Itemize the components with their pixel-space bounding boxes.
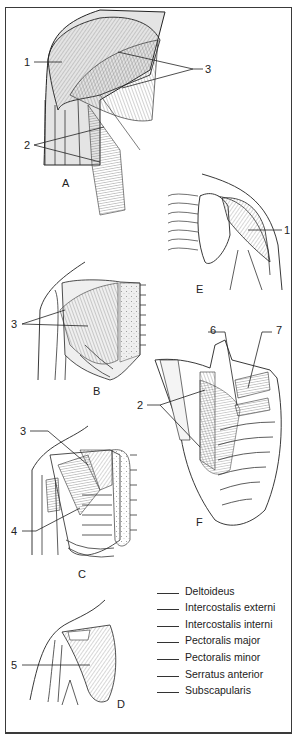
panel-label-e: E xyxy=(196,284,203,295)
callout-a-1: 1 xyxy=(24,57,30,68)
legend-label: Pectoralis minor xyxy=(185,651,260,663)
legend-label: Pectoralis major xyxy=(185,634,260,646)
legend-label: Intercostalis interni xyxy=(185,618,273,630)
callout-f-2: 2 xyxy=(137,400,143,411)
answer-blank xyxy=(157,659,179,660)
panel-e-illustration xyxy=(168,174,282,290)
panel-label-a: A xyxy=(62,178,69,189)
legend-label: Deltoideus xyxy=(185,585,235,597)
legend-item: Intercostalis interni xyxy=(157,613,287,630)
legend-item: Pectoralis minor xyxy=(157,646,287,663)
callout-a-3: 3 xyxy=(205,64,211,75)
panel-label-b: B xyxy=(93,386,100,397)
callout-a-2: 2 xyxy=(24,140,30,151)
legend-label: Intercostalis externi xyxy=(185,601,275,613)
callout-f-7: 7 xyxy=(276,325,282,336)
panel-c-illustration xyxy=(22,426,137,557)
legend-label: Serratus anterior xyxy=(185,668,263,680)
answer-blank xyxy=(157,626,179,627)
answer-blank xyxy=(157,692,179,693)
callout-c-3: 3 xyxy=(20,426,26,437)
callout-c-4: 4 xyxy=(11,526,17,537)
answer-blank xyxy=(157,642,179,643)
callout-b-3: 3 xyxy=(11,319,17,330)
answer-blank xyxy=(157,676,179,677)
legend-item: Serratus anterior xyxy=(157,663,287,680)
callout-f-6: 6 xyxy=(210,325,216,336)
answer-blank xyxy=(157,609,179,610)
panel-f-illustration xyxy=(147,332,281,525)
callout-d-5: 5 xyxy=(11,660,17,671)
muscle-legend: Deltoideus Intercostalis externi Interco… xyxy=(157,580,287,696)
answer-blank xyxy=(157,593,179,594)
legend-item: Intercostalis externi xyxy=(157,597,287,614)
panel-a-illustration xyxy=(34,10,203,215)
panel-label-d: D xyxy=(117,699,125,710)
callout-e-1: 1 xyxy=(284,225,290,236)
legend-item: Pectoralis major xyxy=(157,630,287,647)
legend-item: Subscapularis xyxy=(157,680,287,697)
panel-b-illustration xyxy=(22,262,146,380)
legend-item: Deltoideus xyxy=(157,580,287,597)
panel-label-f: F xyxy=(196,517,203,528)
legend-label: Subscapularis xyxy=(185,684,251,696)
panel-label-c: C xyxy=(78,569,86,580)
panel-d-illustration xyxy=(22,600,116,705)
